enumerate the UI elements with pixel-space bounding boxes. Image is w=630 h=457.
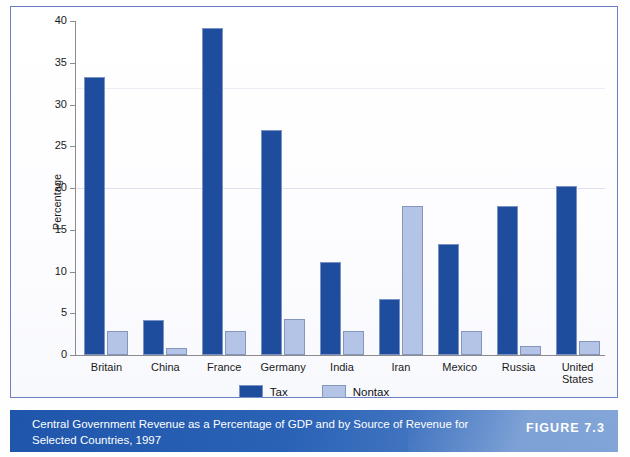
bar-tax — [379, 299, 400, 355]
bar-group: France — [202, 21, 246, 355]
plot-area: 0510152025303540 BritainChinaFranceGerma… — [75, 21, 605, 356]
y-tick-mark — [70, 272, 75, 273]
bar-nontax — [461, 331, 482, 355]
bar-group: Britain — [84, 21, 128, 355]
y-tick-label: 35 — [41, 56, 67, 68]
legend-swatch-icon — [239, 385, 263, 398]
figure-container: Percentage 0510152025303540 BritainChina… — [0, 0, 630, 457]
x-axis-category-label: Mexico — [442, 361, 477, 373]
bar-nontax — [107, 331, 128, 355]
bar-tax — [556, 186, 577, 355]
plot-inner: 0510152025303540 BritainChinaFranceGerma… — [75, 21, 605, 356]
y-tick-mark — [70, 63, 75, 64]
bar-group: China — [143, 21, 187, 355]
caption-bar: Central Government Revenue as a Percenta… — [10, 410, 618, 452]
y-tick-mark — [70, 146, 75, 147]
y-tick-label: 10 — [41, 265, 67, 277]
y-tick-mark — [70, 21, 75, 22]
y-tick-mark — [70, 355, 75, 356]
bar-group: Russia — [497, 21, 541, 355]
bar-nontax — [225, 331, 246, 355]
caption-text: Central Government Revenue as a Percenta… — [32, 417, 502, 448]
x-axis-category-label: Germany — [260, 361, 305, 373]
bar-nontax — [579, 341, 600, 355]
bar-group: Iran — [379, 21, 423, 355]
y-tick-label: 40 — [41, 14, 67, 26]
y-tick-label: 20 — [41, 181, 67, 193]
legend-swatch-icon — [322, 385, 346, 398]
bar-group: Germany — [261, 21, 305, 355]
bar-group: India — [320, 21, 364, 355]
bar-tax — [438, 244, 459, 355]
bar-tax — [84, 77, 105, 355]
y-tick-label: 5 — [41, 306, 67, 318]
figure-number: FIGURE 7.3 — [526, 421, 605, 435]
y-tick-mark — [70, 313, 75, 314]
bar-nontax — [284, 319, 305, 355]
bar-nontax — [343, 331, 364, 355]
bar-nontax — [402, 206, 423, 355]
bar-tax — [143, 320, 164, 355]
bar-nontax — [520, 346, 541, 355]
x-axis-category-label: Iran — [391, 361, 410, 373]
chart-frame: Percentage 0510152025303540 BritainChina… — [10, 6, 618, 398]
legend-item-tax: Tax — [239, 385, 288, 398]
x-axis-category-label: Russia — [502, 361, 536, 373]
bar-tax — [202, 28, 223, 355]
bar-tax — [261, 130, 282, 355]
x-axis-category-label: India — [330, 361, 354, 373]
x-axis-category-label: Britain — [91, 361, 122, 373]
bar-tax — [497, 206, 518, 355]
bar-nontax — [166, 348, 187, 356]
x-axis-line — [75, 355, 605, 356]
bar-group: Mexico — [438, 21, 482, 355]
y-tick-mark — [70, 105, 75, 106]
chart-legend: TaxNontax — [11, 385, 617, 398]
bar-tax — [320, 262, 341, 355]
y-tick-label: 30 — [41, 98, 67, 110]
x-axis-category-label: United States — [562, 361, 594, 385]
y-tick-label: 25 — [41, 139, 67, 151]
legend-label: Tax — [270, 386, 288, 398]
x-axis-category-label: China — [151, 361, 180, 373]
legend-label: Nontax — [353, 386, 389, 398]
bar-group: United States — [556, 21, 600, 355]
legend-item-nontax: Nontax — [322, 385, 389, 398]
y-tick-label: 0 — [41, 348, 67, 360]
y-tick-label: 15 — [41, 223, 67, 235]
x-axis-category-label: France — [207, 361, 241, 373]
y-tick-mark — [70, 230, 75, 231]
